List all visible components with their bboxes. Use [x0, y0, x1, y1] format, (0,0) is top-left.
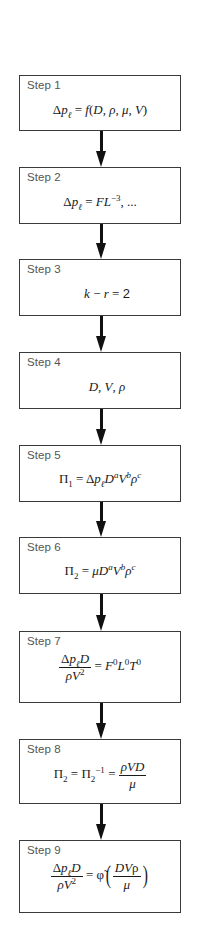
- step-5-label: Step 5: [27, 449, 61, 461]
- step-9-label: Step 9: [27, 844, 61, 856]
- step-1-label: Step 1: [27, 79, 61, 91]
- step-1-box: Step 1 Δpℓ = f(D, ρ, μ, V): [19, 75, 181, 131]
- arrow-down-icon: [96, 224, 106, 259]
- step-7-formula: ΔpℓD ρV2 = F0L0T0: [20, 652, 180, 682]
- fraction: DVρ μ: [113, 861, 141, 891]
- fraction: ΔpℓD ρV2: [51, 861, 83, 891]
- arrow-down-icon: [96, 502, 106, 537]
- step-7-label: Step 7: [27, 635, 61, 647]
- step-6-formula: Π2 = μDaVbρc: [20, 563, 180, 579]
- arrow-down-icon: [96, 131, 106, 167]
- step-4-formula: D, V, ρ: [20, 379, 180, 395]
- step-3-label: Step 3: [27, 263, 61, 275]
- fraction: ΔpℓD ρV2: [59, 652, 91, 682]
- step-8-label: Step 8: [27, 743, 61, 755]
- arrow-down-icon: [96, 316, 106, 352]
- step-3-formula: k − r = 2: [20, 286, 180, 302]
- step-6-box: Step 6 Π2 = μDaVbρc: [19, 537, 181, 594]
- step-2-formula: Δpℓ = FL−3, ...: [20, 194, 180, 210]
- arrow-down-icon: [96, 409, 106, 445]
- step-6-label: Step 6: [27, 541, 61, 553]
- step-9-box: Step 9 ΔpℓD ρV2 = φ̃( DVρ μ ): [19, 840, 181, 913]
- step-4-label: Step 4: [27, 356, 61, 368]
- step-4-box: Step 4 D, V, ρ: [19, 352, 181, 409]
- step-1-formula: Δpℓ = f(D, ρ, μ, V): [20, 102, 180, 118]
- step-9-formula: ΔpℓD ρV2 = φ̃( DVρ μ ): [20, 861, 180, 891]
- step-2-box: Step 2 Δpℓ = FL−3, ...: [19, 167, 181, 224]
- step-5-box: Step 5 Π1 = ΔpℓDaVbρc: [19, 445, 181, 502]
- step-8-box: Step 8 Π2 = Π2−1 = ρVD μ: [19, 739, 181, 804]
- step-2-label: Step 2: [27, 171, 61, 183]
- arrow-down-icon: [96, 594, 106, 631]
- arrow-down-icon: [96, 804, 106, 840]
- arrow-down-icon: [96, 703, 106, 739]
- step-7-box: Step 7 ΔpℓD ρV2 = F0L0T0: [19, 631, 181, 703]
- step-3-box: Step 3 k − r = 2: [19, 259, 181, 316]
- step-8-formula: Π2 = Π2−1 = ρVD μ: [20, 760, 180, 790]
- step-5-formula: Π1 = ΔpℓDaVbρc: [20, 471, 180, 487]
- fraction: ρVD μ: [119, 760, 147, 790]
